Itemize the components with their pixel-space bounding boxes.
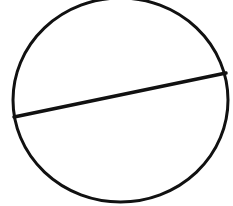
diagram-canvas	[0, 0, 233, 206]
circle-outline	[13, 0, 228, 202]
chord-line	[14, 73, 226, 117]
